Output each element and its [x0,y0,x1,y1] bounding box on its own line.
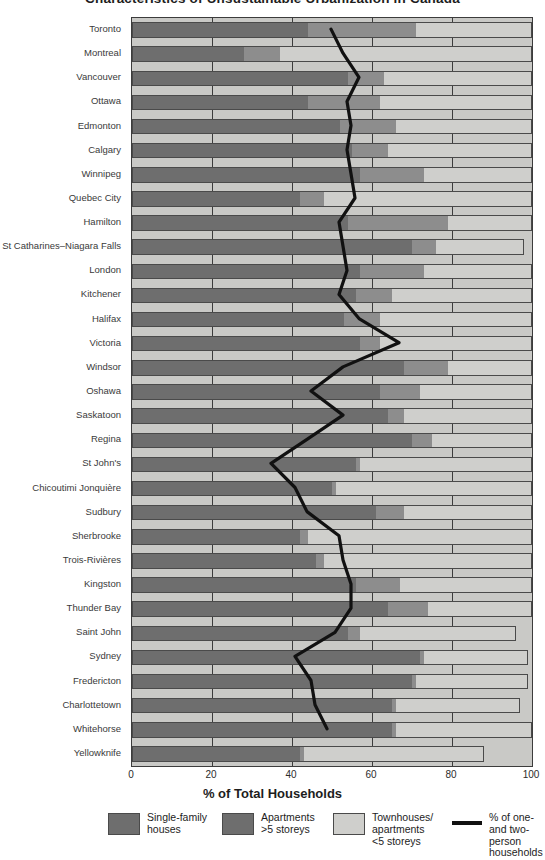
bar-row[interactable] [132,215,532,231]
bar-row[interactable] [132,312,532,328]
segment-townhouses-under5 [400,577,532,593]
bar-row[interactable] [132,529,532,545]
y-axis-tick-label: Kitchener [0,289,126,299]
segment-townhouses-under5 [416,22,532,38]
segment-townhouses-under5 [424,167,532,183]
y-axis-tick-label: Thunder Bay [0,603,126,613]
bar-row[interactable] [132,674,532,690]
segment-single-family [132,46,244,62]
segment-single-family [132,191,300,207]
segment-apartments-over5 [388,601,428,617]
segment-apartments-over5 [352,143,388,159]
segment-single-family [132,143,352,159]
bar-row[interactable] [132,553,532,569]
segment-apartments-over5 [308,22,416,38]
segment-single-family [132,336,360,352]
segment-single-family [132,22,308,38]
y-axis-tick-label: Kingston [0,579,126,589]
segment-single-family [132,360,404,376]
segment-townhouses-under5 [380,312,532,328]
segment-apartments-over5 [300,529,308,545]
segment-townhouses-under5 [396,722,532,738]
segment-single-family [132,264,360,280]
segment-single-family [132,119,340,135]
bar-row[interactable] [132,264,532,280]
segment-single-family [132,505,376,521]
bar-row[interactable] [132,384,532,400]
segment-townhouses-under5 [380,95,532,111]
segment-townhouses-under5 [432,433,532,449]
x-axis-tick-label: 20 [205,769,216,780]
page-title: Characteristics of Unsustainable Urbaniz… [0,0,545,6]
segment-single-family [132,553,316,569]
segment-townhouses-under5 [424,650,528,666]
bar-row[interactable] [132,601,532,617]
bar-row[interactable] [132,336,532,352]
segment-townhouses-under5 [280,46,532,62]
segment-single-family [132,601,388,617]
segment-single-family [132,384,380,400]
legend-item[interactable]: Apartments >5 storeys [222,812,315,836]
bar-row[interactable] [132,722,532,738]
y-axis-tick-label: Trois-Rivières [0,555,126,565]
bar-row[interactable] [132,505,532,521]
legend-item[interactable]: % of one- and two- person households [452,812,545,859]
bar-row[interactable] [132,746,532,762]
bar-row[interactable] [132,143,532,159]
y-axis-tick-label: Calgary [0,145,126,155]
segment-single-family [132,722,392,738]
bar-row[interactable] [132,408,532,424]
bar-row[interactable] [132,626,532,642]
bar-row[interactable] [132,360,532,376]
swatch-dark-icon [108,813,140,835]
segment-townhouses-under5 [324,191,532,207]
y-axis-tick-label: Charlottetown [0,700,126,710]
y-axis-labels: TorontoMontrealVancouverOttawaEdmontonCa… [0,17,126,765]
bar-row[interactable] [132,698,532,714]
segment-townhouses-under5 [436,239,524,255]
x-axis-tick-label: 40 [285,769,296,780]
bar-row[interactable] [132,433,532,449]
bar-row[interactable] [132,577,532,593]
segment-apartments-over5 [308,95,380,111]
chart-legend: Single-family housesApartments >5 storey… [0,812,545,860]
segment-single-family [132,626,348,642]
legend-item[interactable]: Single-family houses [108,812,207,836]
legend-label: Apartments >5 storeys [261,812,315,836]
segment-apartments-over5 [340,119,396,135]
bar-row[interactable] [132,167,532,183]
x-axis-title: % of Total Households [0,786,545,801]
segment-single-family [132,167,360,183]
y-axis-tick-label: Yellowknife [0,748,126,758]
bar-row[interactable] [132,481,532,497]
segment-townhouses-under5 [380,336,532,352]
y-axis-tick-label: Regina [0,434,126,444]
segment-apartments-over5 [356,577,400,593]
bar-row[interactable] [132,95,532,111]
swatch-light-icon [333,813,365,835]
y-axis-tick-label: Sherbrooke [0,531,126,541]
bar-row[interactable] [132,22,532,38]
segment-apartments-over5 [348,215,448,231]
segment-single-family [132,71,348,87]
y-axis-tick-label: London [0,265,126,275]
segment-apartments-over5 [412,239,436,255]
bar-row[interactable] [132,119,532,135]
legend-item[interactable]: Townhouses/ apartments <5 storeys [333,812,433,847]
bar-row[interactable] [132,191,532,207]
segment-apartments-over5 [360,167,424,183]
legend-label: % of one- and two- person households [489,812,545,859]
bar-row[interactable] [132,46,532,62]
bar-row[interactable] [132,288,532,304]
bar-row[interactable] [132,239,532,255]
bar-row[interactable] [132,650,532,666]
y-axis-tick-label: Windsor [0,362,126,372]
segment-single-family [132,674,412,690]
y-axis-tick-label: Oshawa [0,386,126,396]
bar-row[interactable] [132,457,532,473]
bar-row[interactable] [132,71,532,87]
y-axis-tick-label: Toronto [0,24,126,34]
segment-apartments-over5 [356,288,392,304]
y-axis-tick-label: Saint John [0,627,126,637]
y-axis-tick-label: Sydney [0,651,126,661]
